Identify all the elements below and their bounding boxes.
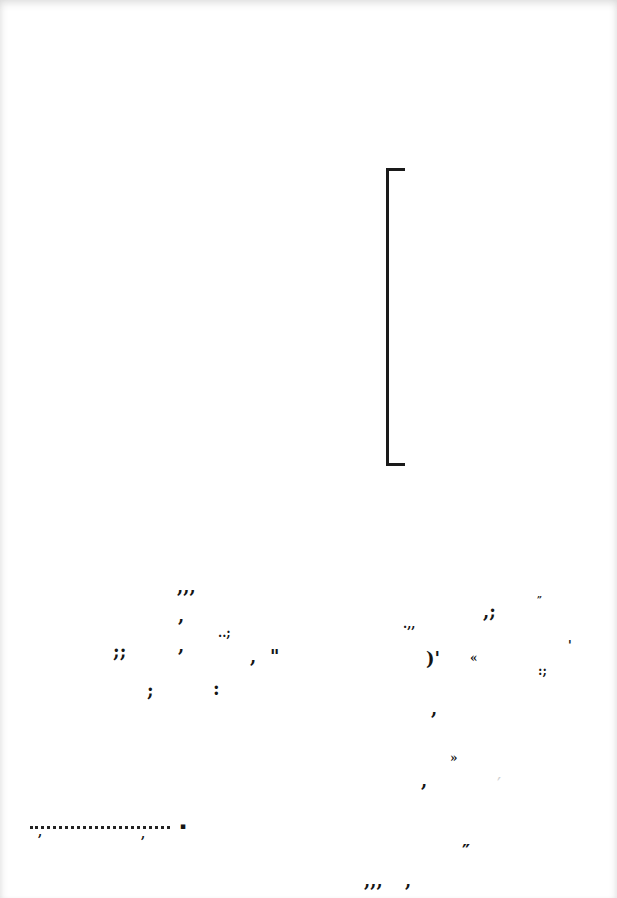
punctuation-mark: , bbox=[178, 607, 184, 625]
punctuation-mark: ' bbox=[568, 640, 572, 652]
punctuation-mark: ,,, bbox=[364, 872, 383, 890]
punctuation-mark: :; bbox=[538, 665, 547, 677]
punctuation-mark: „ bbox=[537, 590, 542, 599]
punctuation-mark: « bbox=[470, 652, 478, 664]
punctuation-mark: , bbox=[421, 772, 427, 790]
punctuation-mark: ′ bbox=[497, 776, 501, 794]
punctuation-mark: )' bbox=[426, 650, 440, 668]
punctuation-mark: ; bbox=[147, 682, 154, 700]
punctuation-mark: ;; bbox=[113, 643, 126, 661]
punctuation-mark: , bbox=[431, 700, 437, 718]
punctuation-mark: " bbox=[270, 648, 279, 666]
punctuation-mark: , bbox=[178, 637, 184, 655]
dot-leader-comma: , bbox=[141, 828, 145, 840]
punctuation-mark: ,,, bbox=[177, 578, 196, 596]
punctuation-mark: , bbox=[405, 872, 411, 890]
punctuation-mark: ,; bbox=[483, 603, 496, 621]
punctuation-mark: ″ bbox=[462, 843, 470, 861]
punctuation-mark: .,, bbox=[403, 618, 416, 630]
scanned-page: ,,,,..;;;,,";:„.,,,;')'«:;,»,′″,,,,,,▪ bbox=[0, 0, 617, 898]
punctuation-mark: ..; bbox=[218, 627, 231, 639]
dot-leader-line bbox=[30, 826, 170, 829]
punctuation-mark: : bbox=[213, 680, 220, 698]
left-square-bracket bbox=[386, 168, 405, 466]
punctuation-mark: » bbox=[450, 752, 458, 764]
dot-leader-end-dot: ▪ bbox=[180, 822, 186, 831]
punctuation-mark: , bbox=[250, 648, 256, 666]
